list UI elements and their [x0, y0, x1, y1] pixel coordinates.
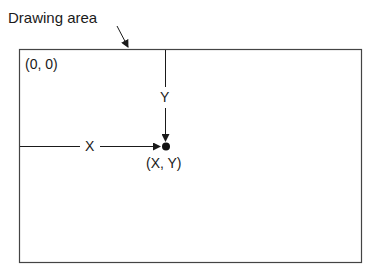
- origin-label: (0, 0): [25, 56, 58, 72]
- drawing-area-title: Drawing area: [8, 10, 97, 26]
- y-label: Y: [159, 89, 170, 105]
- diagram-canvas: [0, 0, 374, 277]
- point-marker: [162, 143, 170, 151]
- title-pointer-arrow: [117, 26, 128, 47]
- x-label: X: [82, 138, 97, 154]
- point-label: (X, Y): [146, 155, 182, 171]
- drawing-area-rect: [20, 50, 362, 263]
